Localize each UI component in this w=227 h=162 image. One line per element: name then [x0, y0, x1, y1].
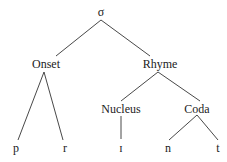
edge-onset-r: [44, 72, 63, 140]
node-coda: Coda: [184, 102, 209, 116]
edge-onset-p: [18, 72, 44, 140]
leaf-r: r: [63, 141, 67, 155]
edge-coda-n: [169, 115, 197, 140]
node-syllable: σ: [98, 5, 104, 19]
edge-rhyme-coda: [158, 72, 200, 101]
leaf-p: p: [13, 141, 19, 155]
edge-root-rhyme: [101, 20, 150, 56]
node-nucleus: Nucleus: [101, 102, 140, 116]
leaf-n: n: [165, 141, 171, 155]
node-onset: Onset: [32, 57, 60, 71]
tree-edges: [0, 0, 227, 162]
leaf-t: t: [216, 141, 219, 155]
edge-coda-t: [197, 115, 218, 140]
leaf-i: ɪ: [119, 141, 122, 155]
edge-root-onset: [56, 20, 101, 56]
edge-rhyme-nucleus: [121, 72, 158, 101]
node-rhyme: Rhyme: [143, 57, 178, 71]
